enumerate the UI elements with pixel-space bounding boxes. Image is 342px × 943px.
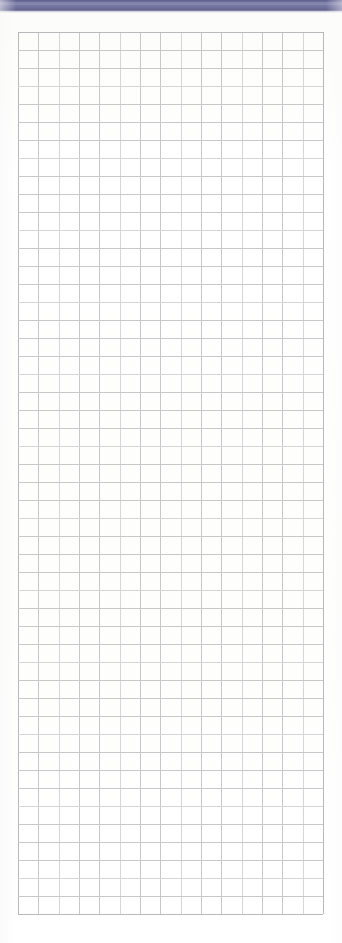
grid-line-horizontal (18, 896, 323, 897)
grid-line-horizontal (18, 176, 323, 177)
grid-line-horizontal (18, 770, 323, 771)
grid-line-vertical (323, 32, 324, 914)
grid-line-horizontal (18, 194, 323, 195)
grid-line-horizontal (18, 356, 323, 357)
grid-line-horizontal (18, 824, 323, 825)
grid-line-horizontal (18, 554, 323, 555)
grid-line-horizontal (18, 500, 323, 501)
grid-line-horizontal (18, 752, 323, 753)
grid-line-horizontal (18, 716, 323, 717)
grid-line-horizontal (18, 806, 323, 807)
grid-line-horizontal (18, 68, 323, 69)
graph-paper-grid (18, 32, 323, 914)
grid-line-horizontal (18, 518, 323, 519)
grid-line-horizontal (18, 320, 323, 321)
grid-line-horizontal (18, 608, 323, 609)
scanner-edge-band-shadow (0, 11, 342, 13)
grid-line-horizontal (18, 392, 323, 393)
grid-line-horizontal (18, 860, 323, 861)
grid-line-horizontal (18, 626, 323, 627)
grid-line-horizontal (18, 140, 323, 141)
grid-line-horizontal (18, 32, 323, 33)
grid-line-horizontal (18, 158, 323, 159)
grid-line-horizontal (18, 482, 323, 483)
grid-line-horizontal (18, 338, 323, 339)
grid-line-horizontal (18, 86, 323, 87)
grid-line-horizontal (18, 662, 323, 663)
grid-line-horizontal (18, 374, 323, 375)
grid-line-horizontal (18, 536, 323, 537)
grid-line-horizontal (18, 410, 323, 411)
grid-line-horizontal (18, 302, 323, 303)
grid-line-horizontal (18, 680, 323, 681)
grid-line-horizontal (18, 266, 323, 267)
grid-line-horizontal (18, 248, 323, 249)
grid-line-horizontal (18, 212, 323, 213)
grid-line-horizontal (18, 698, 323, 699)
grid-line-horizontal (18, 104, 323, 105)
grid-line-horizontal (18, 446, 323, 447)
grid-line-horizontal (18, 878, 323, 879)
scanner-edge-band (0, 0, 342, 11)
grid-line-horizontal (18, 464, 323, 465)
scanner-edge-band-highlight (0, 2, 342, 5)
grid-line-horizontal (18, 734, 323, 735)
grid-line-horizontal (18, 284, 323, 285)
grid-line-horizontal (18, 122, 323, 123)
grid-line-horizontal (18, 428, 323, 429)
scanned-page (0, 0, 342, 943)
grid-line-horizontal (18, 644, 323, 645)
grid-line-horizontal (18, 842, 323, 843)
grid-line-horizontal (18, 230, 323, 231)
grid-horizontal-lines (18, 32, 323, 914)
grid-line-horizontal (18, 788, 323, 789)
grid-line-horizontal (18, 914, 323, 915)
grid-line-horizontal (18, 590, 323, 591)
grid-line-horizontal (18, 50, 323, 51)
grid-line-horizontal (18, 572, 323, 573)
